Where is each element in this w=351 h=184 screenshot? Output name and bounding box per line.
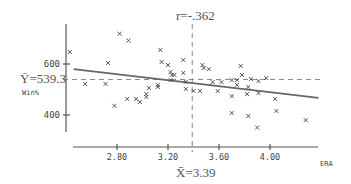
data-point [104,82,108,86]
data-point [112,104,116,108]
scatter-chart: 600 400 Win% 2.80 3.20 3.60 4.00 ERA r=-… [0,0,351,184]
data-point [83,82,87,86]
data-point [239,64,243,68]
data-point [144,95,148,99]
data-point [230,94,234,98]
data-point [68,50,72,54]
y-tick-label-600: 600 [44,59,60,69]
data-point [160,60,164,64]
data-point [134,97,138,101]
data-point [172,73,176,77]
data-point [235,78,239,82]
data-point [304,118,308,122]
x-mean-label: X̄=3.39 [176,165,215,180]
data-point [246,85,250,89]
data-point [156,85,160,89]
data-point [264,76,268,80]
regression-line [74,69,319,98]
x-tick-label-3.60: 3.60 [209,152,229,162]
data-point [166,63,170,67]
data-point [106,61,110,65]
data-point [211,80,215,84]
x-axis-label: ERA [320,160,333,168]
x-tick-label-3.20: 3.20 [158,152,178,162]
data-point [184,87,188,91]
y-tick-label-400: 400 [44,110,60,120]
y-axis-label: Win% [22,89,40,97]
correlation-label: r=-.362 [176,8,215,23]
data-point [230,111,234,115]
y-mean-label: Ȳ=539.3 [20,71,66,86]
data-point [230,78,234,82]
data-point [125,97,129,101]
data-point [246,114,250,118]
data-point [257,79,261,83]
data-point [156,83,160,87]
data-point [216,89,220,93]
data-point [147,86,151,90]
data-point [220,80,224,84]
x-tick-label-2.80: 2.80 [107,152,127,162]
data-point [181,58,185,62]
data-point [138,100,142,104]
data-point [181,71,185,75]
data-point [198,89,202,93]
data-point [118,32,122,36]
data-point [257,91,261,95]
x-tick-label-4.00: 4.00 [260,152,280,162]
data-point [255,125,259,129]
data-point [235,83,239,87]
data-point [158,48,162,52]
data-point [274,109,278,113]
data-point [245,92,249,96]
data-point [126,39,130,43]
data-point [240,73,244,77]
data-point [273,97,277,101]
data-point [207,67,211,71]
